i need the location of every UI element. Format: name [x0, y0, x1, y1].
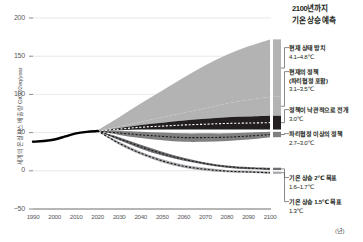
x-axis-tick-label: 2100 [257, 213, 283, 220]
legend-entry: 기온 상승 2℃ 목표1.6~1.7℃ [289, 174, 362, 191]
legend-entry-value: 2.7~3.0℃ [289, 139, 362, 148]
scenario-end-marker [273, 97, 281, 116]
scenario-end-marker [273, 132, 281, 137]
legend-leader-line [281, 173, 289, 202]
legend-entry: 현재의 정책(파리협정 포함)3.1~3.5℃ [289, 68, 362, 94]
legend-leader-line [281, 48, 289, 68]
y-axis-tick-label: 200 [0, 14, 25, 21]
y-axis-tick-label: −50 [0, 205, 25, 212]
scenario-end-marker [273, 116, 281, 130]
legend-entry: 파리협정 이상의 정책2.7~3.0℃ [289, 130, 362, 147]
scenario-end-marker [273, 168, 281, 170]
legend-leader-line [281, 169, 289, 178]
legend-entry-name: 기온 상승 2℃ 목표 [289, 174, 362, 183]
legend-entry: 정책이 낙관적으로 전개3.0℃ [289, 106, 362, 123]
legend-entry-value: 1.3℃ [289, 207, 362, 216]
legend-entry-name-cont: (파리협정 포함) [289, 77, 362, 86]
legend-title-line1: 2100년까지 [292, 4, 363, 14]
y-axis-title: 세계의 온실가스 배출량 GtCO2eq/year [15, 47, 24, 187]
legend-leader-line [281, 134, 289, 135]
legend-entry-value: 3.1~3.5℃ [289, 85, 362, 94]
legend-entry-name: 현재 상태 방치 [289, 44, 362, 53]
emissions-scenario-chart: 200150100500−50 199020002010202020302040… [0, 0, 363, 242]
scenario-end-marker [273, 172, 281, 174]
legend-leader-line [281, 72, 289, 107]
legend-entry-name: 정책이 낙관적으로 전개 [289, 106, 362, 115]
legend-entry-name: 현재의 정책 [289, 68, 362, 77]
legend: 2100년까지 기온 상승 예측 [292, 4, 363, 29]
legend-entry: 현재 상태 방치4.1~4.8℃ [289, 44, 362, 61]
legend-entry: 기온 상승 1.5℃ 목표1.3℃ [289, 198, 362, 215]
legend-entry-name: 기온 상승 1.5℃ 목표 [289, 198, 362, 207]
legend-entry-value: 3.0℃ [289, 115, 362, 124]
legend-title-line2: 기온 상승 예측 [292, 16, 363, 26]
x-axis-unit-label: (년) [335, 226, 344, 235]
legend-entry-value: 4.1~4.8℃ [289, 53, 362, 62]
scenario-end-marker [273, 39, 281, 96]
legend-leader-line [281, 110, 289, 123]
legend-entry-value: 1.6~1.7℃ [289, 183, 362, 192]
legend-entry-name: 파리협정 이상의 정책 [289, 130, 362, 139]
